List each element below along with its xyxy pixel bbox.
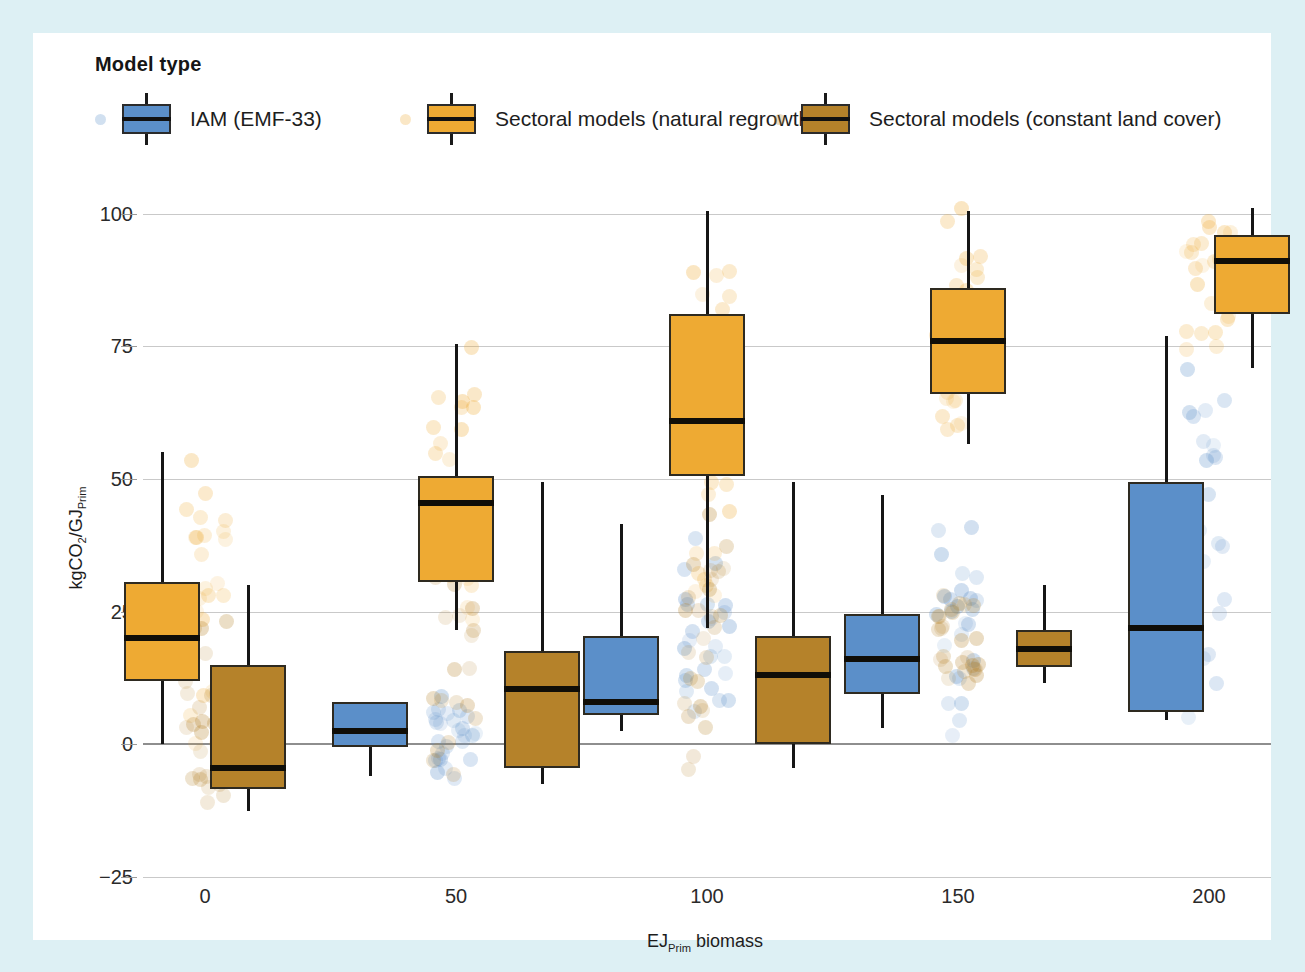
y-tick-label: 100 (13, 202, 133, 225)
box-rect (418, 476, 494, 582)
gridline (143, 877, 1271, 878)
median-line (124, 635, 200, 641)
legend-median-icon (122, 117, 171, 121)
boxplot-constant-100[interactable] (755, 203, 831, 877)
legend: Model type IAM (EMF-33) (95, 53, 1255, 146)
box-rect (1214, 235, 1290, 315)
y-tick-label: 0 (13, 733, 133, 756)
legend-title: Model type (95, 53, 1255, 76)
boxplot-iam-50[interactable] (332, 203, 408, 877)
median-line (844, 656, 920, 662)
box-rect (755, 636, 831, 745)
legend-box-swatch-constant (798, 93, 853, 145)
boxplot-iam-100[interactable] (583, 203, 659, 877)
chart-panel: Model type IAM (EMF-33) (33, 33, 1271, 940)
median-line (930, 338, 1006, 344)
box-rect (1128, 482, 1204, 713)
legend-median-icon (427, 117, 476, 121)
legend-median-icon (801, 117, 850, 121)
legend-label-iam: IAM (EMF-33) (190, 107, 322, 131)
median-line (418, 500, 494, 506)
boxplot-natural-100[interactable] (669, 203, 745, 877)
boxplot-constant-0[interactable] (210, 203, 286, 877)
box-rect (124, 582, 200, 680)
y-axis-label: kgCO2/GJPrim (66, 486, 89, 589)
x-tick-label: 100 (690, 885, 723, 908)
x-tick-label: 0 (199, 885, 210, 908)
box-rect (669, 314, 745, 476)
box-rect (504, 651, 580, 768)
legend-point-marker-iam (95, 114, 106, 125)
x-tick-label: 200 (1192, 885, 1225, 908)
x-axis-label: EJPrim biomass (647, 931, 763, 954)
box-rect (332, 702, 408, 747)
y-tick-label: 75 (13, 335, 133, 358)
x-tick-label: 150 (941, 885, 974, 908)
legend-point-marker-natural (400, 114, 411, 125)
boxplot-iam-150[interactable] (844, 203, 920, 877)
boxplot-natural-200[interactable] (1214, 203, 1290, 877)
median-line (755, 672, 831, 678)
boxplot-constant-50[interactable] (504, 203, 580, 877)
median-line (210, 765, 286, 771)
chart-figure: Model type IAM (EMF-33) (0, 0, 1305, 972)
y-tick-label: 25 (13, 600, 133, 623)
y-tick-label: 50 (13, 467, 133, 490)
y-tick-mark (121, 877, 137, 878)
legend-point-marker-constant (774, 114, 785, 125)
legend-item-natural[interactable]: Sectoral models (natural regrowth) (400, 92, 817, 146)
boxplot-iam-200[interactable] (1128, 203, 1204, 877)
plot-area: 1007550250−25050100150200 (143, 203, 1271, 877)
legend-label-constant: Sectoral models (constant land cover) (869, 107, 1222, 131)
boxplot-natural-50[interactable] (418, 203, 494, 877)
median-line (1128, 625, 1204, 631)
boxplot-constant-150[interactable] (1016, 203, 1072, 877)
legend-item-iam[interactable]: IAM (EMF-33) (95, 92, 322, 146)
median-line (1214, 258, 1290, 264)
box-rect (844, 614, 920, 694)
median-line (669, 418, 745, 424)
legend-box-swatch-natural (424, 93, 479, 145)
median-line (583, 699, 659, 705)
median-line (332, 728, 408, 734)
boxplot-natural-0[interactable] (124, 203, 200, 877)
median-line (504, 686, 580, 692)
legend-box-swatch-iam (119, 93, 174, 145)
boxplot-natural-150[interactable] (930, 203, 1006, 877)
legend-items: IAM (EMF-33) Sectoral models (natural re… (95, 92, 1255, 146)
median-line (1016, 646, 1072, 652)
y-tick-label: −25 (13, 866, 133, 889)
x-tick-label: 50 (445, 885, 467, 908)
legend-label-natural: Sectoral models (natural regrowth) (495, 107, 817, 131)
legend-item-constant[interactable]: Sectoral models (constant land cover) (774, 92, 1222, 146)
